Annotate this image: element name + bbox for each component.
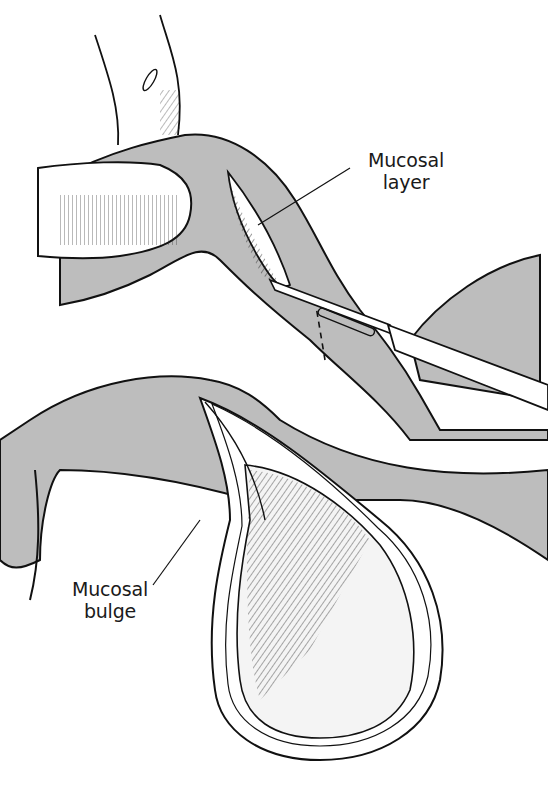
leader-line-mucosal-bulge: [153, 520, 200, 585]
label-mucosal-bulge: Mucosal bulge: [58, 578, 162, 622]
finger: [38, 15, 191, 258]
label-mucosal-layer: Mucosal layer: [354, 149, 458, 193]
surgical-illustration: [0, 0, 548, 789]
label-line-1: Mucosal: [58, 578, 162, 600]
label-line-2: bulge: [58, 600, 162, 622]
label-line-1: Mucosal: [354, 149, 458, 171]
label-line-2: layer: [354, 171, 458, 193]
